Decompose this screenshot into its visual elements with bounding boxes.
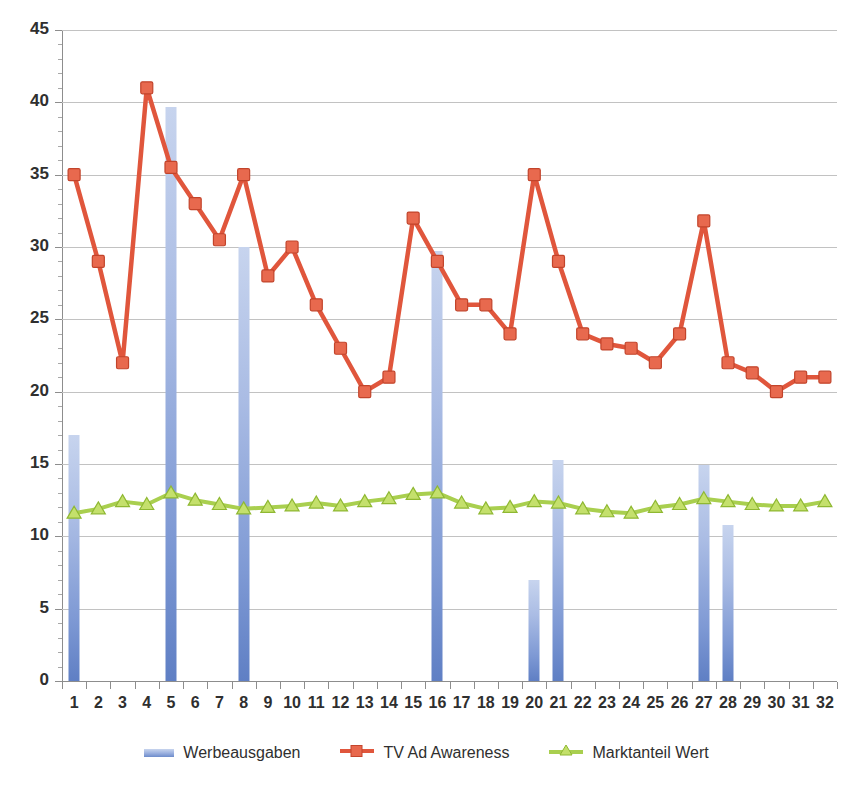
data-point-marker[interactable] xyxy=(674,328,686,340)
data-point-marker[interactable] xyxy=(165,161,177,173)
data-point-marker[interactable] xyxy=(189,198,201,210)
x-tick xyxy=(595,682,596,689)
x-axis-tick-label: 31 xyxy=(792,694,810,712)
x-tick xyxy=(813,682,814,689)
data-point-marker[interactable] xyxy=(117,357,129,369)
data-point-marker[interactable] xyxy=(504,328,516,340)
data-point-marker[interactable] xyxy=(286,241,298,253)
x-axis-tick-label: 21 xyxy=(550,694,568,712)
line-series-tv-ad-awareness xyxy=(68,82,831,398)
legend-item-marktanteil-wert[interactable]: Marktanteil Wert xyxy=(549,744,708,762)
legend-item-werbeausgaben[interactable]: Werbeausgaben xyxy=(144,744,300,762)
x-axis-tick-label: 14 xyxy=(380,694,398,712)
data-point-marker[interactable] xyxy=(577,328,589,340)
legend-label: Marktanteil Wert xyxy=(592,744,708,762)
data-point-marker[interactable] xyxy=(141,82,153,94)
x-tick xyxy=(328,682,329,689)
x-axis-tick-label: 10 xyxy=(283,694,301,712)
x-tick xyxy=(522,682,523,689)
x-tick xyxy=(183,682,184,689)
x-axis-tick-label: 28 xyxy=(719,694,737,712)
data-point-marker[interactable] xyxy=(164,486,178,498)
bar-swatch-icon xyxy=(144,749,174,757)
x-tick xyxy=(280,682,281,689)
x-axis-tick-label: 18 xyxy=(477,694,495,712)
x-tick xyxy=(425,682,426,689)
legend-item-tv-ad-awareness[interactable]: TV Ad Awareness xyxy=(340,744,509,762)
x-axis-tick-label: 26 xyxy=(671,694,689,712)
x-tick xyxy=(740,682,741,689)
x-tick xyxy=(377,682,378,689)
line-series-layer xyxy=(62,30,837,681)
x-tick xyxy=(401,682,402,689)
y-axis-tick-label: 45 xyxy=(0,19,49,39)
x-axis-tick-label: 16 xyxy=(428,694,446,712)
data-point-marker[interactable] xyxy=(698,215,710,227)
data-point-marker[interactable] xyxy=(407,212,419,224)
x-tick xyxy=(159,682,160,689)
data-point-marker[interactable] xyxy=(213,234,225,246)
x-axis-tick-label: 13 xyxy=(356,694,374,712)
data-point-marker[interactable] xyxy=(335,342,347,354)
data-point-marker[interactable] xyxy=(431,255,443,267)
x-axis-tick-label: 4 xyxy=(142,694,151,712)
data-point-marker[interactable] xyxy=(68,169,80,181)
data-point-marker[interactable] xyxy=(480,299,492,311)
x-tick xyxy=(304,682,305,689)
x-axis-tick-label: 20 xyxy=(525,694,543,712)
y-axis-tick-label: 40 xyxy=(0,91,49,111)
data-point-marker[interactable] xyxy=(383,371,395,383)
x-axis-tick-label: 5 xyxy=(167,694,176,712)
x-tick xyxy=(643,682,644,689)
x-axis-tick-label: 29 xyxy=(743,694,761,712)
x-tick xyxy=(716,682,717,689)
data-point-marker[interactable] xyxy=(552,255,564,267)
x-tick xyxy=(86,682,87,689)
data-point-marker[interactable] xyxy=(262,270,274,282)
data-point-marker[interactable] xyxy=(92,255,104,267)
y-tick-major xyxy=(55,464,62,465)
x-axis-tick-label: 19 xyxy=(501,694,519,712)
chart-legend: Werbeausgaben TV Ad Awareness Marktantei… xyxy=(0,744,853,762)
y-tick-major xyxy=(55,102,62,103)
data-point-marker[interactable] xyxy=(649,357,661,369)
data-point-marker[interactable] xyxy=(819,371,831,383)
x-tick xyxy=(232,682,233,689)
x-tick xyxy=(692,682,693,689)
x-axis-tick-label: 3 xyxy=(118,694,127,712)
x-axis-tick-label: 23 xyxy=(598,694,616,712)
data-point-marker[interactable] xyxy=(746,367,758,379)
x-tick xyxy=(474,682,475,689)
x-tick xyxy=(135,682,136,689)
x-tick xyxy=(110,682,111,689)
data-point-marker[interactable] xyxy=(722,357,734,369)
data-point-marker[interactable] xyxy=(456,299,468,311)
x-axis-tick-label: 12 xyxy=(332,694,350,712)
legend-label: TV Ad Awareness xyxy=(383,744,509,762)
x-tick xyxy=(256,682,257,689)
data-point-marker[interactable] xyxy=(625,342,637,354)
x-axis-tick-label: 11 xyxy=(308,694,325,712)
x-axis-tick-label: 15 xyxy=(404,694,422,712)
red-line-marker-icon xyxy=(340,744,374,762)
y-axis-tick-label: 25 xyxy=(0,308,49,328)
x-tick xyxy=(764,682,765,689)
y-tick-major xyxy=(55,609,62,610)
x-axis-tick-label: 8 xyxy=(239,694,248,712)
data-point-marker[interactable] xyxy=(601,338,613,350)
x-tick xyxy=(619,682,620,689)
y-axis-tick-label: 20 xyxy=(0,381,49,401)
x-axis-tick-label: 17 xyxy=(453,694,471,712)
data-point-marker[interactable] xyxy=(359,386,371,398)
data-point-marker[interactable] xyxy=(310,299,322,311)
x-axis-labels: 1234567891011121314151617181920212223242… xyxy=(62,682,837,722)
data-point-marker[interactable] xyxy=(528,169,540,181)
data-point-marker[interactable] xyxy=(238,169,250,181)
data-point-marker[interactable] xyxy=(795,371,807,383)
x-axis-tick-label: 24 xyxy=(622,694,640,712)
x-tick xyxy=(789,682,790,689)
x-axis-tick-label: 7 xyxy=(215,694,224,712)
x-tick xyxy=(353,682,354,689)
x-axis-tick-label: 1 xyxy=(70,694,79,712)
data-point-marker[interactable] xyxy=(770,386,782,398)
